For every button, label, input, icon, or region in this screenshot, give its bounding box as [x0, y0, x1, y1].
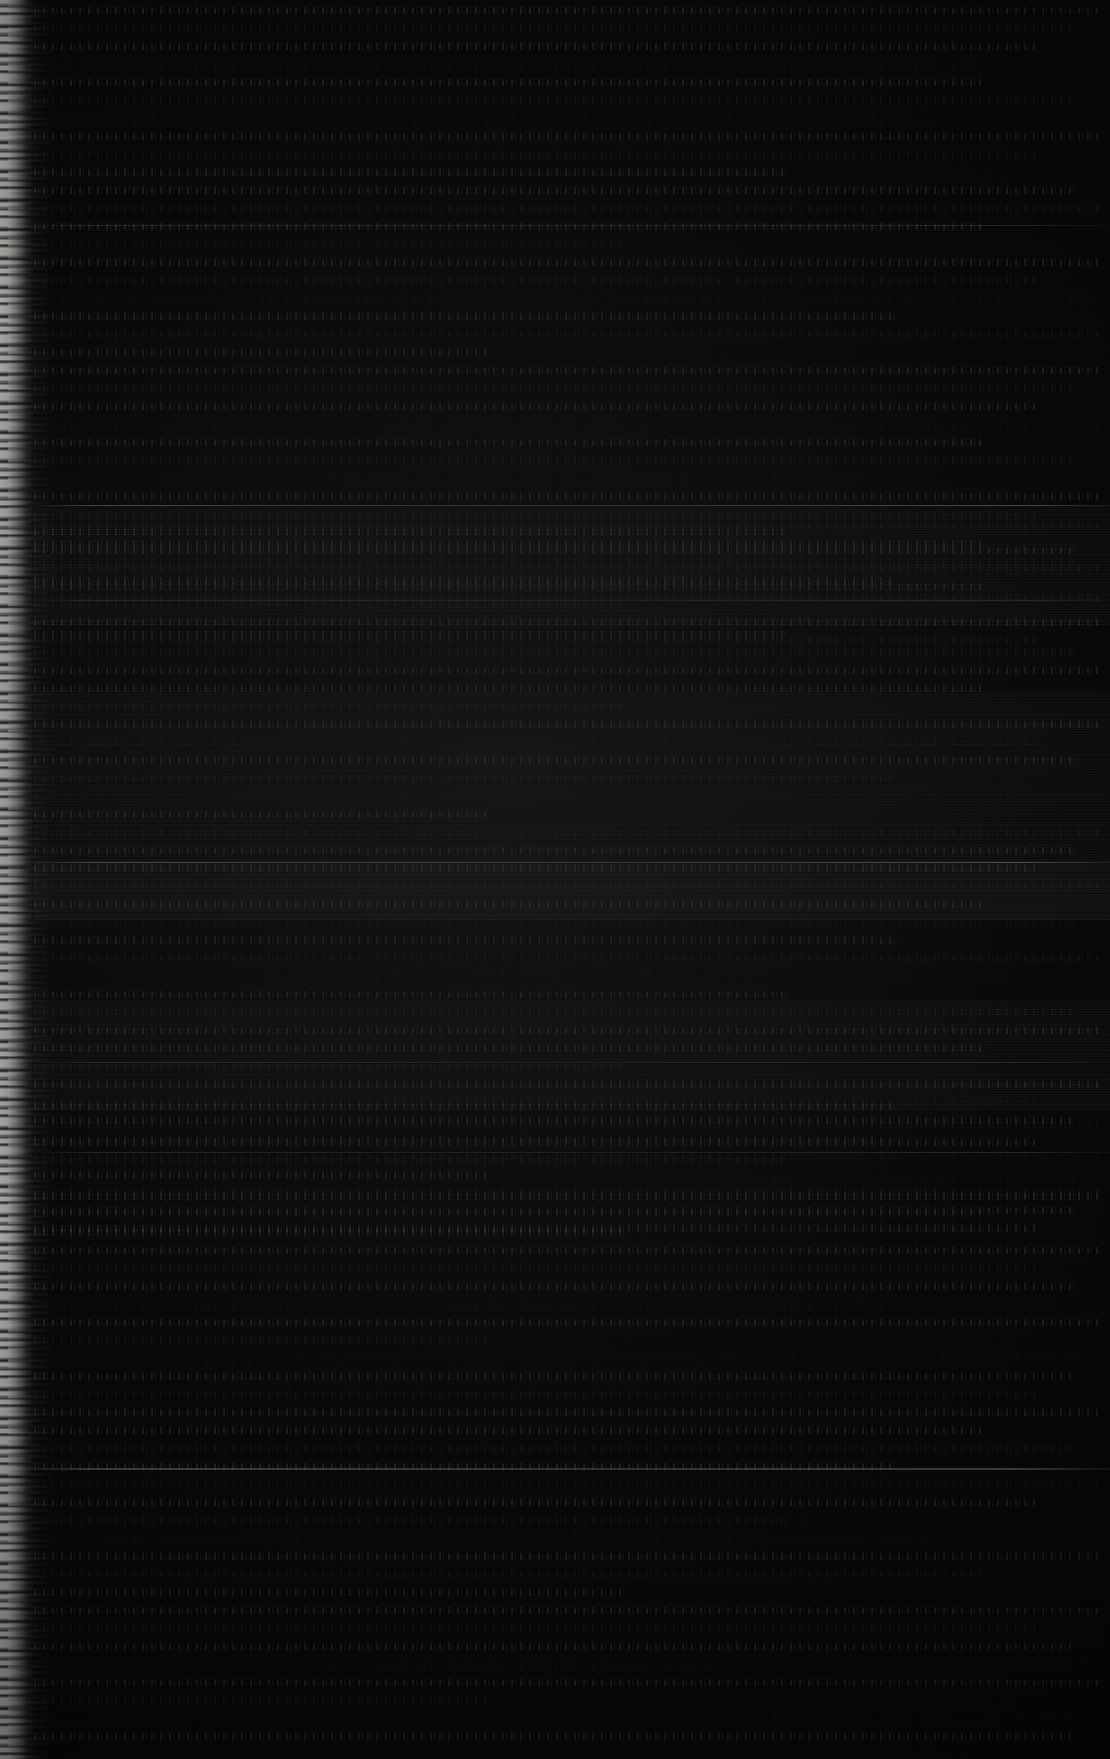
text-line [34, 1568, 1110, 1581]
text-line [34, 1586, 1110, 1599]
text-line [34, 184, 1110, 197]
text-line [34, 76, 1110, 89]
text-line [34, 112, 1110, 125]
text-line [34, 1334, 1110, 1347]
text-line [34, 22, 1110, 35]
scan-stripe-band-middle [26, 690, 1110, 920]
text-line [34, 40, 1110, 53]
text-line [34, 1136, 1110, 1149]
text-line [34, 472, 1110, 485]
text-line [34, 166, 1110, 179]
text-line [34, 1442, 1110, 1455]
text-line [34, 1622, 1110, 1635]
text-line [34, 1406, 1110, 1419]
text-line [34, 1190, 1110, 1203]
text-line [34, 58, 1110, 71]
text-line [34, 1118, 1110, 1131]
text-line [34, 382, 1110, 395]
text-line [34, 1262, 1110, 1275]
text-line [34, 1676, 1110, 1689]
text-line [34, 970, 1110, 983]
text-block-lower [34, 1100, 1110, 1748]
text-line [34, 1424, 1110, 1437]
text-line [34, 1514, 1110, 1527]
text-line [34, 274, 1110, 287]
text-line [34, 1730, 1110, 1743]
text-line [34, 1550, 1110, 1563]
text-line [34, 1370, 1110, 1383]
text-line [34, 1154, 1110, 1167]
text-line [34, 292, 1110, 305]
text-line [34, 628, 1110, 641]
divider-rule-1 [26, 225, 1110, 226]
text-line [34, 418, 1110, 431]
divider-rule-3 [26, 600, 1110, 601]
text-line [34, 1352, 1110, 1365]
text-line [34, 454, 1110, 467]
text-line [34, 1280, 1110, 1293]
text-line [34, 1640, 1110, 1653]
text-line [34, 1658, 1110, 1671]
text-line [34, 1694, 1110, 1707]
text-line [34, 1478, 1110, 1491]
text-line [34, 400, 1110, 413]
text-line [34, 490, 1110, 503]
text-line [34, 130, 1110, 143]
text-line [34, 1496, 1110, 1509]
text-line [34, 328, 1110, 341]
text-line [34, 202, 1110, 215]
text-line [34, 1460, 1110, 1473]
text-line [34, 1316, 1110, 1329]
divider-rule-4 [26, 862, 1110, 863]
text-line [34, 238, 1110, 251]
text-line [34, 1208, 1110, 1221]
torn-page-edge-fray [8, 0, 54, 1759]
text-line [34, 1388, 1110, 1401]
text-line [34, 1712, 1110, 1725]
text-line [34, 1298, 1110, 1311]
divider-rule-6 [26, 1152, 1110, 1153]
text-line [34, 436, 1110, 449]
text-line [34, 220, 1110, 233]
text-line [34, 1244, 1110, 1257]
text-line [34, 952, 1110, 965]
text-line [34, 94, 1110, 107]
scan-stripe-band-lower [26, 1000, 1110, 1110]
divider-rule-5 [26, 1062, 1110, 1063]
text-line [34, 1172, 1110, 1185]
text-line [34, 1226, 1110, 1239]
text-line [34, 646, 1110, 659]
divider-rule-7 [26, 1468, 1110, 1470]
text-line [34, 1604, 1110, 1617]
text-line [34, 256, 1110, 269]
text-line [34, 148, 1110, 161]
text-line [34, 346, 1110, 359]
text-line [34, 934, 1110, 947]
text-line [34, 664, 1110, 677]
scanned-document-page [0, 0, 1110, 1759]
divider-rule-2 [26, 505, 1110, 506]
text-line [34, 4, 1110, 17]
text-line [34, 310, 1110, 323]
scan-stripe-band-upper [26, 505, 1110, 625]
text-line [34, 1532, 1110, 1545]
text-line [34, 364, 1110, 377]
